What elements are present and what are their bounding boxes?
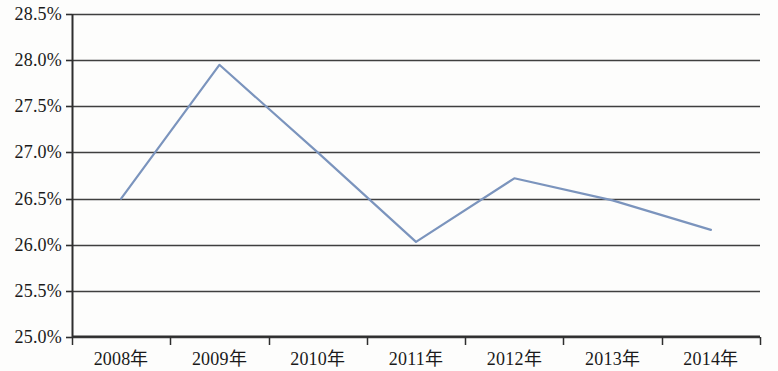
xtick-label: 2013年 (563, 350, 661, 368)
xtick-label: 2011年 (367, 350, 465, 368)
ytick-label: 27.5% (15, 97, 63, 115)
xtick-label: 2012年 (465, 350, 563, 368)
xtick-label: 2009年 (170, 350, 268, 368)
gridline-group (72, 15, 760, 338)
xtick-label: 2014年 (662, 350, 760, 368)
ytick-label: 26.5% (15, 190, 63, 208)
ytick-label: 25.0% (15, 328, 63, 346)
ytick-label: 28.5% (15, 5, 63, 23)
ytick-label: 25.5% (15, 282, 63, 300)
data-series-line (121, 65, 711, 242)
ytick-label: 28.0% (15, 51, 63, 69)
line-chart: 28.5%28.0%27.5%27.0%26.5%26.0%25.5%25.0%… (0, 0, 778, 371)
ytick-label: 26.0% (15, 236, 63, 254)
xtick-label: 2010年 (269, 350, 367, 368)
ytick-label: 27.0% (15, 143, 63, 161)
xtick-label: 2008年 (72, 350, 170, 368)
ytick-mark-group (66, 15, 72, 338)
chart-plot-area (0, 0, 778, 371)
